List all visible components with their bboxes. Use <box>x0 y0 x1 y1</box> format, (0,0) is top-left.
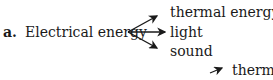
output-thermal: thermal energy <box>170 4 273 20</box>
next-output-partial: therma <box>232 62 273 78</box>
output-sound: sound <box>170 43 213 59</box>
output-light: light <box>170 24 203 40</box>
